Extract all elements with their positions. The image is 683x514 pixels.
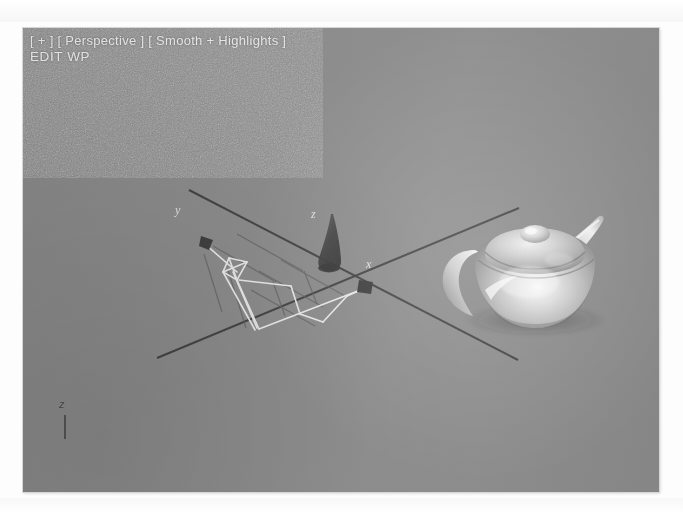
axis-line-y: [189, 190, 518, 360]
viewport-label[interactable]: [ + ] [ Perspective ] [ Smooth + Highlig…: [30, 33, 286, 65]
axis-line-x: [157, 208, 519, 358]
viewport-scene[interactable]: y z x: [23, 28, 659, 492]
teapot-handle: [443, 250, 479, 316]
axis-label-x: x: [365, 257, 372, 271]
axis-label-z: z: [310, 207, 316, 221]
viewport-label-line1[interactable]: [ + ] [ Perspective ] [ Smooth + Highlig…: [30, 33, 286, 48]
world-axis-lines: [157, 190, 519, 360]
camera-target-node[interactable]: [199, 236, 213, 250]
cone-object[interactable]: [318, 214, 341, 272]
axis-label-y: y: [174, 203, 181, 217]
axis-tripod: z: [53, 398, 93, 444]
scan-margin-bottom: [0, 498, 683, 514]
scanned-page: y z x: [0, 0, 683, 514]
tripod-z-axis-line: [64, 415, 66, 439]
perspective-viewport[interactable]: y z x: [23, 28, 659, 492]
teapot-object[interactable]: [443, 216, 607, 337]
origin-pivot-marker[interactable]: [357, 280, 373, 294]
scan-margin-top: [0, 0, 683, 22]
teapot-knob: [520, 225, 550, 243]
viewport-label-line2: EDIT WP: [30, 49, 286, 65]
tripod-z-label: z: [59, 398, 65, 410]
